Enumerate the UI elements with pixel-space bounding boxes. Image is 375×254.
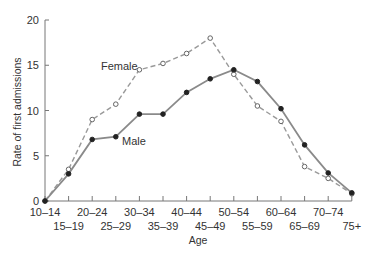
x-tick-label: 60–64 [266, 206, 297, 218]
male-label: Male [122, 135, 146, 147]
female-point [184, 51, 189, 56]
y-tick-label: 10 [27, 105, 39, 117]
male-point [43, 199, 48, 204]
female-point [255, 104, 260, 109]
male-point [255, 79, 260, 84]
x-axis: 10–1415–1920–2425–2930–3435–3940–4445–49… [30, 196, 361, 232]
male-point [350, 191, 355, 196]
male-point [326, 171, 331, 176]
y-axis: 05101520 [27, 14, 49, 207]
female-point [114, 102, 119, 107]
female-point [208, 36, 213, 41]
y-tick-label: 20 [27, 14, 39, 26]
line-chart: 05101520 10–1415–1920–2425–2930–3435–394… [0, 0, 375, 254]
male-point [184, 90, 189, 95]
male-point [279, 106, 284, 111]
female-point [279, 119, 284, 124]
female-point [161, 61, 166, 66]
female-point [232, 72, 237, 77]
x-tick-label: 65–69 [289, 220, 320, 232]
x-tick-label: 55–59 [242, 220, 273, 232]
x-tick-label: 15–19 [53, 220, 84, 232]
x-axis-title: Age [189, 234, 208, 246]
male-point [161, 112, 166, 117]
female-label: Female [101, 60, 138, 72]
female-point [326, 176, 331, 181]
x-tick-label: 45–49 [195, 220, 226, 232]
x-tick-label: 25–29 [101, 220, 132, 232]
x-tick-label: 10–14 [30, 206, 61, 218]
x-tick-label: 40–44 [171, 206, 202, 218]
y-tick-label: 15 [27, 59, 39, 71]
male-point [114, 134, 119, 139]
male-point [208, 77, 213, 82]
male-point [137, 112, 142, 117]
male-point [90, 137, 95, 142]
x-tick-label: 35–39 [148, 220, 179, 232]
y-axis-title: Rate of first admissions [11, 57, 23, 166]
x-tick-label: 20–24 [77, 206, 108, 218]
y-tick-label: 5 [33, 150, 39, 162]
male-line [45, 70, 352, 201]
x-tick-label: 30–34 [124, 206, 155, 218]
female-point [302, 164, 307, 169]
female-point [137, 67, 142, 72]
x-tick-label: 75+ [342, 220, 361, 232]
male-point [66, 172, 71, 177]
female-point [90, 117, 95, 122]
x-tick-label: 70–74 [313, 206, 344, 218]
series-group [43, 36, 354, 204]
x-tick-label: 50–54 [219, 206, 250, 218]
male-point [232, 67, 237, 72]
male-point [302, 143, 307, 148]
